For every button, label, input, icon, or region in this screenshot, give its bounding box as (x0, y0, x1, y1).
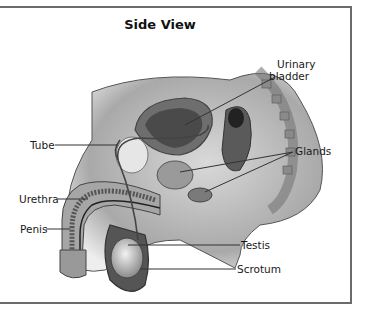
label-glands: Glands (295, 145, 331, 157)
rectum-lumen (228, 108, 244, 128)
label-penis: Penis (20, 223, 47, 235)
label-tube: Tube (30, 139, 55, 151)
label-scrotum: Scrotum (237, 263, 281, 275)
label-urinary-bladder-line1: Urinary (277, 58, 316, 70)
label-urinary-bladder-line2: bladder (269, 70, 309, 82)
glans-shape (60, 250, 86, 278)
testis-shape (111, 238, 143, 278)
prostate-gland (157, 161, 193, 189)
label-urethra: Urethra (19, 193, 59, 205)
label-testis: Testis (241, 239, 270, 251)
